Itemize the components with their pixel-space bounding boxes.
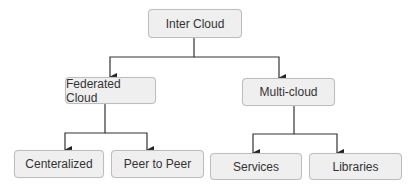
edge-root-multi [194,57,279,78]
node-multi-cloud: Multi-cloud [242,78,335,106]
node-centeralized: Centeralized [14,150,104,178]
node-services: Services [210,153,302,180]
edge-multi-libraries [294,134,337,153]
node-inter-cloud: Inter Cloud [148,9,242,38]
edge-root-federated [110,38,194,77]
edge-federated-centeralized [65,104,105,150]
edge-federated-p2p [105,133,147,150]
node-peer-to-peer: Peer to Peer [111,150,204,178]
node-libraries: Libraries [309,153,402,180]
node-federated-cloud: Federated Cloud [65,77,156,104]
edge-multi-services [253,106,294,153]
